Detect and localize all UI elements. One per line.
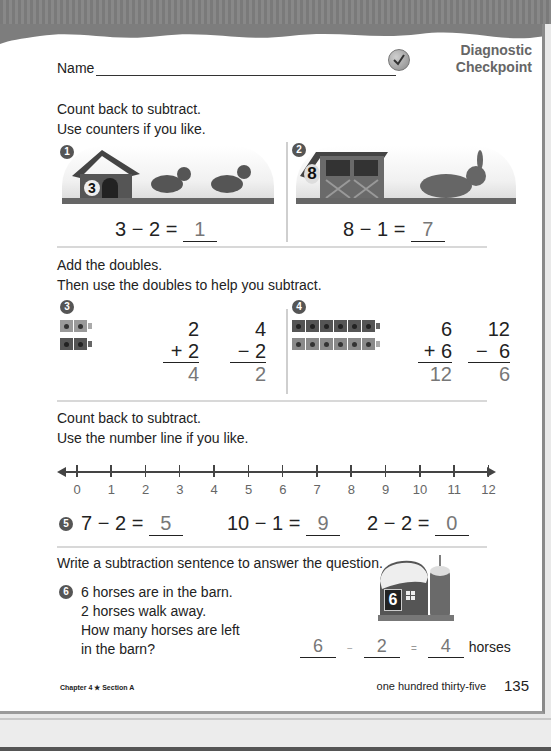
answer-blank-5c[interactable]: 0 — [435, 512, 469, 536]
chapter-section-label: Chapter 4 ★ Section A — [60, 684, 134, 692]
page-number: 135 — [504, 677, 529, 694]
number-line-label: 6 — [273, 482, 293, 497]
equation-2: 8 − 1 = 7 — [343, 218, 445, 242]
section1-instruction-1: Count back to subtract. — [57, 101, 201, 117]
answer-3-add[interactable]: 4 — [163, 362, 199, 385]
number-line-label: 5 — [239, 482, 259, 497]
badge-line-2: Checkpoint — [456, 59, 532, 76]
number-line-tick — [213, 465, 215, 477]
equation-1: 3 − 2 = 1 — [115, 218, 217, 242]
cube-train-dark-6 — [292, 320, 380, 332]
scene-label-8: 8 — [304, 164, 320, 184]
barn-silo-illustration: 6 — [378, 553, 458, 625]
section-divider — [57, 546, 487, 548]
answer-blank-5b[interactable]: 9 — [306, 512, 340, 536]
section1-instruction-2: Use counters if you like. — [57, 121, 206, 137]
section2-instruction-1: Add the doubles. — [57, 257, 162, 273]
number-line-tick — [316, 465, 318, 477]
number-line-label: 0 — [67, 482, 87, 497]
number-line-tick — [453, 465, 455, 477]
badge-line-1: Diagnostic — [456, 42, 532, 59]
number-line-label: 7 — [307, 482, 327, 497]
answer-blank-6a[interactable]: 6 — [300, 636, 336, 658]
doghouse-dogs-illustration: 3 — [62, 146, 274, 204]
subtraction-problem-3: 4 − 2 2 — [230, 318, 266, 385]
vertical-divider — [286, 309, 288, 394]
answer-blank-1[interactable]: 1 — [183, 218, 217, 242]
number-line-axis — [62, 471, 490, 473]
number-line-tick — [350, 465, 352, 477]
number-line-label: 12 — [479, 482, 499, 497]
word-problem-text: 6 horses are in the barn. 2 horses walk … — [81, 583, 240, 659]
bottom-border — [0, 718, 551, 751]
number-line-label: 4 — [204, 482, 224, 497]
number-line-tick — [488, 465, 490, 477]
number-line-label: 1 — [101, 482, 121, 497]
number-line-tick — [76, 465, 78, 477]
diagnostic-checkpoint-badge: Diagnostic Checkpoint — [456, 42, 532, 76]
number-line-label: 10 — [410, 482, 430, 497]
scene-label-3: 3 — [84, 180, 100, 196]
answer-4-add[interactable]: 12 — [418, 362, 452, 385]
problem-number-5: 5 — [59, 517, 73, 531]
hutch-rabbit-illustration: 8 — [296, 146, 516, 204]
addition-problem-3: 2 + 2 4 — [163, 318, 199, 385]
section3-instruction-1: Count back to subtract. — [57, 410, 201, 426]
cube-train-light-6 — [292, 338, 380, 350]
number-line-tick — [110, 465, 112, 477]
cube-train-light-2 — [60, 320, 92, 332]
subtraction-sentence-6: 6 − 2 = 4 horses — [300, 636, 511, 658]
section4-instruction: Write a subtraction sentence to answer t… — [57, 555, 383, 571]
section-divider — [57, 400, 487, 402]
unit-label: horses — [469, 639, 511, 655]
problem-number-6: 6 — [59, 585, 73, 599]
section-divider — [57, 246, 487, 248]
equation-5c: 2 − 2 = 0 — [367, 512, 469, 536]
answer-3-sub[interactable]: 2 — [230, 362, 266, 385]
number-line-tick — [145, 465, 147, 477]
subtraction-problem-4: 12 − 6 6 — [468, 318, 510, 385]
number-line-tick — [282, 465, 284, 477]
answer-blank-2[interactable]: 7 — [411, 218, 445, 242]
answer-blank-6b[interactable]: 2 — [364, 636, 400, 658]
checkmark-icon — [388, 49, 410, 71]
arrow-left-icon — [57, 467, 67, 477]
number-line-label: 11 — [444, 482, 464, 497]
problem-number-4: 4 — [292, 300, 306, 314]
number-line-label: 8 — [341, 482, 361, 497]
vertical-divider — [286, 142, 288, 242]
answer-blank-6c[interactable]: 4 — [428, 636, 464, 658]
section3-instruction-2: Use the number line if you like. — [57, 430, 248, 446]
name-label: Name — [57, 60, 94, 76]
number-line-tick — [248, 465, 250, 477]
number-line-label: 3 — [170, 482, 190, 497]
page-number-words: one hundred thirty-five — [377, 680, 486, 692]
number-line-tick — [385, 465, 387, 477]
number-line-label: 9 — [376, 482, 396, 497]
problem-number-3: 3 — [60, 300, 74, 314]
equation-5b: 10 − 1 = 9 — [227, 512, 340, 536]
number-line-tick — [179, 465, 181, 477]
section2-instruction-2: Then use the doubles to help you subtrac… — [57, 277, 322, 293]
answer-blank-5a[interactable]: 5 — [149, 512, 183, 536]
cube-train-dark-2 — [60, 338, 92, 350]
name-input-line[interactable] — [96, 75, 396, 76]
top-border — [0, 0, 551, 24]
answer-4-sub[interactable]: 6 — [468, 362, 510, 385]
barn-label-6: 6 — [384, 589, 402, 611]
number-line-tick — [419, 465, 421, 477]
addition-problem-4: 6 + 6 12 — [418, 318, 452, 385]
number-line-label: 2 — [136, 482, 156, 497]
equation-5a: 7 − 2 = 5 — [81, 512, 183, 536]
